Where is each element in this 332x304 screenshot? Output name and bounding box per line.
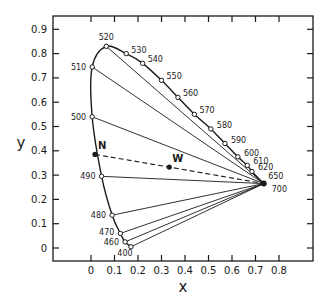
- wavelength-marker-470: [118, 231, 122, 235]
- x-tick-label: 0.3: [154, 265, 170, 276]
- wavelength-label-530: 530: [131, 46, 146, 55]
- y-tick-label: 0.2: [31, 194, 47, 205]
- wavelength-label-490: 490: [80, 172, 95, 181]
- x-tick-label: 0.5: [201, 265, 217, 276]
- confusion-line: [125, 184, 264, 242]
- y-tick-label: 0.8: [31, 48, 47, 59]
- wavelength-marker-490: [99, 174, 103, 178]
- confusion-line: [131, 184, 264, 247]
- wavelength-label-550: 550: [167, 72, 182, 81]
- wavelength-label-540: 540: [148, 55, 163, 64]
- y-tick-label: 0.6: [31, 97, 47, 108]
- wavelength-label-590: 590: [231, 136, 246, 145]
- chromaticity-diagram: 00.10.20.30.40.50.60.70.800.10.20.30.40.…: [0, 0, 332, 304]
- wavelength-label-480: 480: [91, 211, 106, 220]
- point-label-W: W: [172, 153, 183, 164]
- wavelength-label-460: 460: [104, 238, 119, 247]
- wavelength-marker-560: [176, 95, 180, 99]
- y-tick-label: 0.9: [31, 24, 47, 35]
- wavelength-marker-480: [110, 213, 114, 217]
- wavelength-marker-600: [236, 155, 240, 159]
- wavelength-marker-580: [209, 127, 213, 131]
- wavelength-marker-590: [223, 141, 227, 145]
- y-tick-label: 0.5: [31, 121, 47, 132]
- confusion-line: [92, 67, 264, 184]
- plot-frame: [53, 16, 313, 261]
- wavelength-label-520: 520: [99, 33, 114, 42]
- wavelength-label-560: 560: [183, 89, 198, 98]
- special-points: NW: [92, 140, 183, 169]
- wavelength-marker-620: [250, 169, 254, 173]
- x-tick-label: 0.1: [107, 265, 123, 276]
- y-tick-label: 0.1: [31, 218, 47, 229]
- wavelength-label-510: 510: [71, 63, 86, 72]
- wavelength-label-650: 650: [268, 172, 283, 181]
- wavelength-marker-570: [192, 112, 196, 116]
- point-N: [92, 152, 97, 157]
- confusion-line: [102, 176, 264, 183]
- confusion-line: [92, 117, 264, 184]
- wavelength-marker-540: [141, 61, 145, 65]
- x-tick-label: 0: [88, 265, 94, 276]
- y-axis-title: y: [17, 134, 26, 152]
- y-tick-label: 0.3: [31, 170, 47, 181]
- wavelength-marker-610: [245, 163, 249, 167]
- x-tick-label: 0.8: [271, 265, 287, 276]
- point-label-N: N: [98, 140, 106, 151]
- wavelength-marker-510: [90, 65, 94, 69]
- x-tick-label: 0.7: [248, 265, 264, 276]
- wavelength-label-700: 700: [272, 185, 287, 194]
- wavelength-marker-460: [123, 240, 127, 244]
- wavelength-label-570: 570: [199, 106, 214, 115]
- confusion-line: [106, 46, 263, 183]
- x-tick-label: 0.2: [130, 265, 146, 276]
- convergence-point: [261, 181, 267, 187]
- y-tick-label: 0.4: [31, 145, 47, 156]
- axis-ticks: [53, 16, 313, 261]
- x-tick-label: 0.6: [224, 265, 240, 276]
- wavelength-label-500: 500: [71, 113, 86, 122]
- x-tick-label: 0.4: [177, 265, 193, 276]
- confusion-line: [120, 184, 263, 234]
- wavelength-marker-520: [104, 44, 108, 48]
- wavelength-label-470: 470: [99, 228, 114, 237]
- y-tick-label: 0: [41, 243, 47, 254]
- y-tick-label: 0.7: [31, 72, 47, 83]
- confusion-line: [112, 184, 264, 216]
- wavelength-label-400: 400: [117, 249, 132, 258]
- wavelength-marker-550: [159, 78, 163, 82]
- x-axis-title: x: [179, 278, 188, 296]
- wavelength-label-580: 580: [217, 121, 232, 130]
- point-W: [167, 164, 172, 169]
- wavelength-marker-500: [90, 115, 94, 119]
- wavelength-marker-530: [124, 51, 128, 55]
